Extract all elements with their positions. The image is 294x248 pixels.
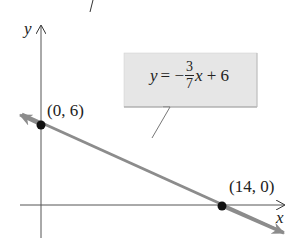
graph-figure: y x (0, 6) (14, 0) y = − 3 7 x + 6 [0, 0, 294, 248]
equation-lhs: = − [161, 66, 184, 86]
x-axis-label: x [276, 208, 284, 228]
slope-fraction: 3 7 [185, 60, 194, 91]
point-label-0-6: (0, 6) [47, 101, 84, 121]
point-y-intercept [37, 121, 46, 130]
y-axis-label: y [24, 19, 32, 39]
line-equation: y = − 3 7 x + 6 [150, 60, 229, 91]
point-label-14-0: (14, 0) [229, 177, 274, 197]
graph-canvas [0, 0, 294, 248]
point-x-intercept [218, 202, 227, 211]
top-mark [90, 0, 93, 12]
callout-pointer [152, 107, 170, 138]
